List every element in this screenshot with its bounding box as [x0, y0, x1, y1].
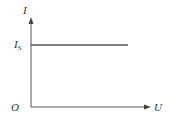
x-axis-label: U [154, 101, 163, 113]
y-axis-label: I [22, 4, 28, 16]
x-axis-arrow-icon [144, 105, 151, 110]
is-subscript: S [18, 44, 22, 52]
is-level-label: IS [13, 38, 22, 52]
origin-label: O [11, 101, 19, 113]
y-axis-arrow-icon [29, 17, 34, 24]
iu-characteristic-diagram: I U O IS [0, 0, 170, 116]
